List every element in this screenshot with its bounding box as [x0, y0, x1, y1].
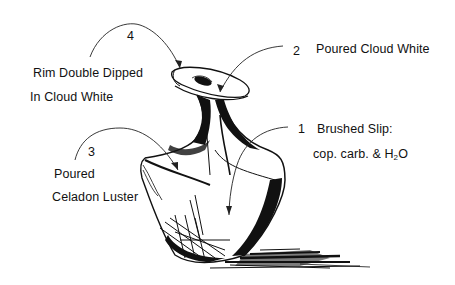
annotation-4-line-1: Rim Double Dipped — [33, 66, 143, 80]
annotation-1-line-2-suffix: O — [398, 147, 408, 161]
annotation-3-number: 3 — [88, 145, 95, 159]
leader-arrows — [75, 24, 288, 215]
annotation-3-line-2: Celadon Luster — [52, 190, 138, 204]
annotation-1-line-2-text: cop. carb. & H — [313, 147, 394, 161]
annotation-1-line-2: cop. carb. & H2O — [313, 147, 408, 161]
annotation-2-line-1: Poured Cloud White — [316, 42, 430, 56]
annotation-1-line-1: Brushed Slip: — [317, 122, 393, 136]
annotation-3-line-1: Poured — [54, 167, 95, 181]
vase-body — [141, 95, 285, 263]
annotation-2-number: 2 — [293, 44, 300, 58]
vase-rim — [172, 67, 250, 99]
annotation-4-line-2: In Cloud White — [30, 90, 113, 104]
arrow-4 — [90, 24, 180, 68]
annotation-1-number: 1 — [298, 122, 305, 136]
annotation-4-number: 4 — [127, 29, 134, 43]
vase-diagram: 4 Rim Double Dipped In Cloud White 2 Pou… — [0, 0, 455, 285]
